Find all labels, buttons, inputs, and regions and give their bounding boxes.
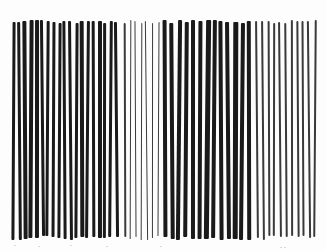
grating-line <box>103 23 107 238</box>
grating-line <box>163 20 168 237</box>
grating-line <box>278 22 282 237</box>
scan-speck <box>14 245 16 246</box>
scan-speck <box>280 247 282 248</box>
scan-speck <box>38 246 40 247</box>
grating-line <box>114 22 119 237</box>
grating-line <box>183 22 189 237</box>
grating-line <box>23 21 28 239</box>
grating-line <box>108 21 113 237</box>
scan-speck <box>284 247 286 248</box>
grating-line <box>74 23 78 238</box>
grating-line <box>291 20 293 236</box>
grating-line <box>135 21 137 237</box>
grating-line <box>239 23 245 240</box>
grating-line <box>51 22 55 237</box>
grating-line <box>91 21 95 237</box>
grating-line <box>80 21 84 237</box>
grating-line <box>11 22 16 240</box>
grating-line <box>129 20 131 239</box>
grating-line <box>35 20 39 238</box>
grating-line <box>198 21 203 239</box>
grating-line <box>225 22 231 239</box>
grating-line <box>267 21 270 236</box>
scan-speck <box>106 246 108 247</box>
grating-line <box>247 21 251 240</box>
line-grating-image <box>0 0 326 251</box>
grating-line <box>176 20 182 240</box>
grating-line <box>28 20 33 238</box>
grating-line <box>296 21 299 237</box>
grating-line <box>211 20 217 238</box>
grating-line <box>233 22 238 239</box>
grating-line <box>313 20 316 237</box>
grating-line <box>218 21 223 240</box>
grating-line <box>169 23 175 239</box>
scan-speck <box>70 245 72 246</box>
grating-line <box>124 23 126 237</box>
grating-line <box>302 21 305 236</box>
grating-line <box>204 20 211 239</box>
grating-line <box>255 21 259 238</box>
scan-speck <box>160 246 162 247</box>
grating-line <box>140 23 142 240</box>
grating-line <box>145 21 149 240</box>
grating-line <box>45 21 49 236</box>
grating-line <box>17 22 22 240</box>
grating-line <box>157 22 159 236</box>
grating-line <box>63 21 68 239</box>
grating-line <box>284 23 287 237</box>
grating-line <box>307 21 311 238</box>
grating-line <box>191 20 195 239</box>
grating-line <box>152 23 154 238</box>
grating-line <box>68 21 73 240</box>
grating-line <box>273 23 275 236</box>
grating-line <box>57 23 61 238</box>
grating-line <box>39 20 44 236</box>
grating-line <box>85 21 90 238</box>
grating-line <box>97 21 101 238</box>
grating-line <box>261 21 265 240</box>
